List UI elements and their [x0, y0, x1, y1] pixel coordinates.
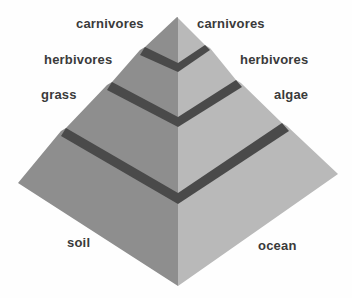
right-level-3-label: algae: [274, 87, 308, 102]
right-level-1-label: carnivores: [197, 16, 265, 31]
left-level-4-label: soil: [67, 235, 90, 250]
right-level-4-label: ocean: [258, 238, 297, 253]
left-level-3-label: grass: [41, 87, 77, 102]
food-pyramid-diagram: carnivores herbivores grass soil carnivo…: [0, 0, 352, 298]
pyramid-graphic: [0, 0, 352, 298]
left-level-1-label: carnivores: [76, 16, 144, 31]
left-level-2-label: herbivores: [44, 52, 112, 67]
right-level-2-label: herbivores: [240, 52, 308, 67]
